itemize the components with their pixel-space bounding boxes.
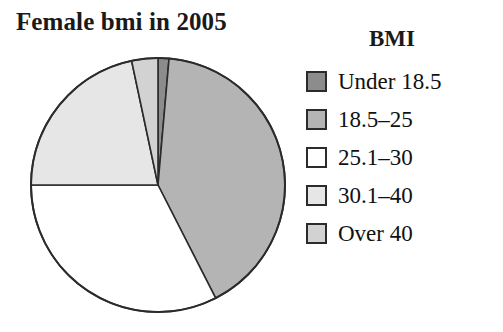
- legend-item[interactable]: 30.1–40: [306, 176, 502, 214]
- legend: BMI Under 18.518.5–2525.1–3030.1–40Over …: [306, 26, 502, 252]
- legend-swatch-icon: [306, 223, 327, 244]
- legend-item[interactable]: 25.1–30: [306, 138, 502, 176]
- legend-item-label: 30.1–40: [338, 184, 413, 207]
- legend-list: Under 18.518.5–2525.1–3030.1–40Over 40: [306, 62, 502, 252]
- chart-title: Female bmi in 2005: [16, 8, 227, 36]
- legend-item[interactable]: Over 40: [306, 214, 502, 252]
- legend-swatch-icon: [306, 185, 327, 206]
- chart-canvas: Female bmi in 2005 BMI Under 18.518.5–25…: [0, 0, 503, 332]
- legend-swatch-icon: [306, 109, 327, 130]
- legend-swatch-icon: [306, 147, 327, 168]
- legend-item[interactable]: 18.5–25: [306, 100, 502, 138]
- pie-chart: [0, 40, 300, 332]
- legend-item-label: Over 40: [338, 222, 413, 245]
- legend-title: BMI: [306, 26, 478, 52]
- legend-item[interactable]: Under 18.5: [306, 62, 502, 100]
- legend-item-label: 18.5–25: [338, 108, 413, 131]
- legend-item-label: Under 18.5: [338, 70, 441, 93]
- pie-chart-svg: [0, 40, 300, 332]
- legend-swatch-icon: [306, 71, 327, 92]
- legend-item-label: 25.1–30: [338, 146, 413, 169]
